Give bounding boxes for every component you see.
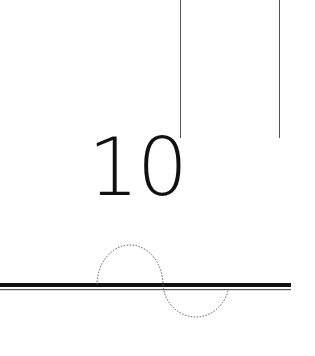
thin-line: [0, 289, 291, 290]
dotted-arc-upper: [97, 245, 163, 285]
thick-line: [0, 283, 291, 287]
wave-diagram: [0, 0, 315, 356]
